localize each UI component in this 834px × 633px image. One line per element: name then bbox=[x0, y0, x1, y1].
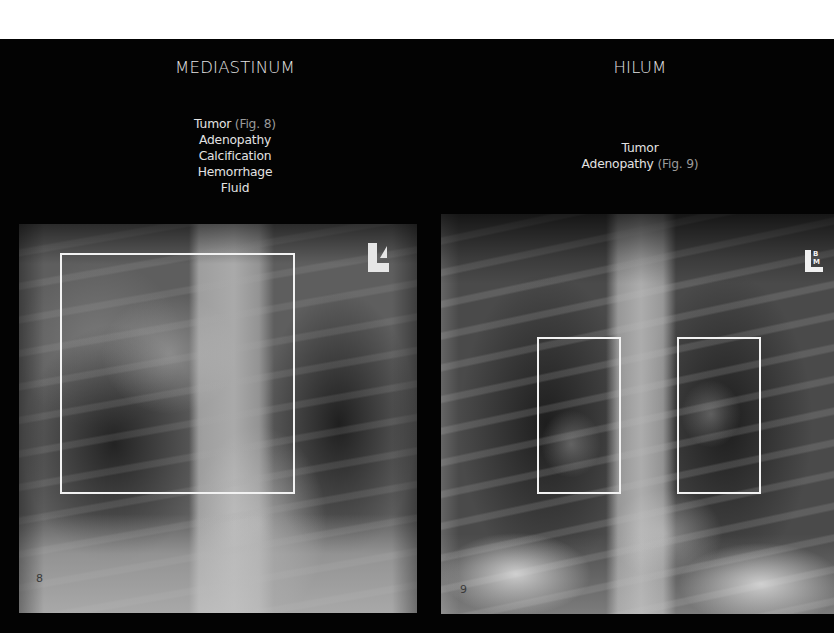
finding-item: Tumor bbox=[560, 140, 720, 156]
finding-item: Calcification bbox=[120, 148, 350, 164]
finding-item: Adenopathy bbox=[120, 132, 350, 148]
left-side-marker-icon: B M bbox=[805, 250, 827, 272]
left-hilum-outline-box bbox=[677, 337, 761, 494]
left-side-marker-icon bbox=[368, 243, 390, 272]
figure-reference: (Fig. 8) bbox=[235, 117, 276, 131]
hilum-findings-list: Tumor Adenopathy (Fig. 9) bbox=[560, 140, 720, 172]
section-heading-mediastinum: MEDIASTINUM bbox=[120, 58, 350, 77]
mediastinum-outline-box bbox=[60, 253, 295, 494]
top-margin bbox=[0, 0, 834, 39]
figure-number: 8 bbox=[36, 572, 43, 585]
figure-number: 9 bbox=[460, 583, 467, 596]
right-hilum-outline-box bbox=[537, 337, 621, 494]
chest-xray-figure-8: 8 bbox=[19, 224, 417, 613]
figure-reference: (Fig. 9) bbox=[657, 157, 698, 171]
finding-item: Hemorrhage bbox=[120, 164, 350, 180]
finding-item: Fluid bbox=[120, 180, 350, 196]
chest-xray-figure-9: B M 9 bbox=[441, 214, 834, 614]
section-heading-hilum: HILUM bbox=[560, 58, 720, 77]
mediastinum-findings-list: Tumor (Fig. 8) Adenopathy Calcification … bbox=[120, 116, 350, 196]
finding-item: Tumor (Fig. 8) bbox=[120, 116, 350, 132]
finding-item: Adenopathy (Fig. 9) bbox=[560, 156, 720, 172]
